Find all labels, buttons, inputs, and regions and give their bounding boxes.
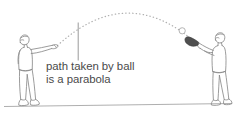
mitt-icon xyxy=(185,37,199,46)
caption-text: path taken by ball is a parabola xyxy=(46,60,156,86)
ball-icon xyxy=(179,28,185,34)
caption-line-1: path taken by ball xyxy=(46,60,156,73)
catcher-figure xyxy=(198,33,232,106)
illustration-canvas: path taken by ball is a parabola xyxy=(0,0,237,123)
caption-line-2: is a parabola xyxy=(46,73,156,86)
